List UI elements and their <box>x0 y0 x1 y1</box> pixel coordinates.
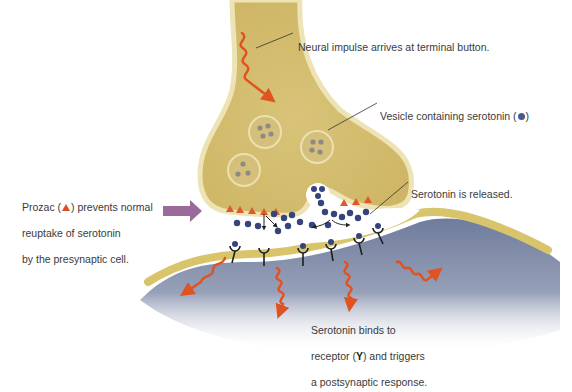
prozac-arrow-icon <box>163 200 202 222</box>
label-prozac: Prozac () prevents normal reuptake of se… <box>22 188 153 279</box>
vesicle <box>301 131 333 163</box>
receptor-icon: Y <box>356 350 363 362</box>
label-serotonin-binds: Serotonin binds to receptor (Y) and trig… <box>311 311 427 392</box>
label-neural-impulse: Neural impulse arrives at terminal butto… <box>298 28 489 54</box>
prozac-icon <box>62 204 70 211</box>
serotonin-icon <box>518 113 525 120</box>
vesicle <box>249 116 281 148</box>
label-vesicle: Vesicle containing serotonin () <box>380 97 529 123</box>
label-serotonin-released: Serotonin is released. <box>411 175 513 201</box>
vesicle <box>228 154 260 186</box>
